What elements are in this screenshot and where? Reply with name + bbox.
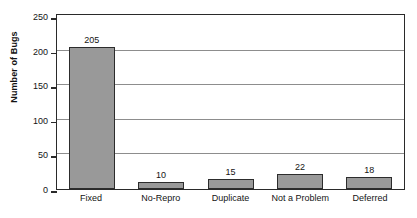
bar[interactable]: 10 xyxy=(138,182,184,189)
bar-value-label: 18 xyxy=(364,165,374,175)
plot-area: 050100150200250 20510152218 xyxy=(56,14,405,190)
bar-value-label: 205 xyxy=(84,35,99,45)
x-axis-category-label: Deferred xyxy=(335,193,405,203)
y-tick-label: 200 xyxy=(33,47,48,57)
bar-slot: 15 xyxy=(196,15,265,189)
y-tick-label: 100 xyxy=(33,116,48,126)
y-tick-label: 50 xyxy=(38,150,48,160)
bar[interactable]: 15 xyxy=(208,179,254,189)
bar[interactable]: 205 xyxy=(69,47,115,189)
bar-value-label: 10 xyxy=(156,170,166,180)
bar-value-label: 22 xyxy=(295,162,305,172)
chart-title xyxy=(0,0,417,2)
bar-slot: 205 xyxy=(57,15,126,189)
bar-slot: 22 xyxy=(265,15,334,189)
bar-value-label: 15 xyxy=(226,167,236,177)
x-axis-category-label: No-Repro xyxy=(126,193,196,203)
bars-layer: 20510152218 xyxy=(57,15,404,189)
bar-slot: 10 xyxy=(126,15,195,189)
x-axis-labels: FixedNo-ReproDuplicateNot a ProblemDefer… xyxy=(56,193,405,203)
x-axis-category-label: Fixed xyxy=(56,193,126,203)
bar[interactable]: 22 xyxy=(277,174,323,189)
bar[interactable]: 18 xyxy=(346,177,392,189)
bar-slot: 18 xyxy=(335,15,404,189)
y-tick-label: 150 xyxy=(33,81,48,91)
x-axis-category-label: Duplicate xyxy=(196,193,266,203)
y-tick-label: 0 xyxy=(43,185,48,195)
x-axis-category-label: Not a Problem xyxy=(265,193,335,203)
bar-chart: Number of Bugs 050100150200250 205101522… xyxy=(0,0,417,218)
y-tick-label: 250 xyxy=(33,12,48,22)
y-axis-ticks: 050100150200250 xyxy=(1,15,57,191)
